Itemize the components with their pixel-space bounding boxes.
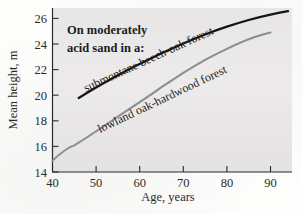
soil-note-line-1: On moderately	[67, 23, 148, 37]
x-tick-label: 90	[264, 176, 277, 190]
soil-note-line-2: acid sand in a:	[67, 41, 144, 55]
x-tick-label: 60	[133, 176, 146, 190]
y-tick-label: 20	[35, 89, 48, 103]
x-axis-tick-labels: 40 50 60 70 80 90	[46, 176, 277, 190]
x-axis-title: Age, years	[141, 190, 195, 204]
y-tick-label: 22	[35, 63, 48, 77]
y-axis-tick-labels: 14 16 18 20 22 24 26	[35, 12, 48, 180]
y-tick-label: 16	[35, 140, 48, 154]
x-tick-label: 80	[221, 176, 234, 190]
y-axis-title: Mean height, m	[6, 50, 20, 129]
figure-container: 14 16 18 20 22 24 26 40 50 60 70 80 90 A…	[0, 0, 302, 214]
x-tick-label: 70	[177, 176, 190, 190]
y-tick-label: 26	[35, 12, 48, 26]
y-tick-label: 18	[35, 114, 48, 128]
x-tick-label: 50	[90, 176, 103, 190]
line-chart: 14 16 18 20 22 24 26 40 50 60 70 80 90 A…	[0, 0, 302, 214]
y-tick-label: 24	[35, 38, 48, 52]
x-tick-label: 40	[46, 176, 59, 190]
